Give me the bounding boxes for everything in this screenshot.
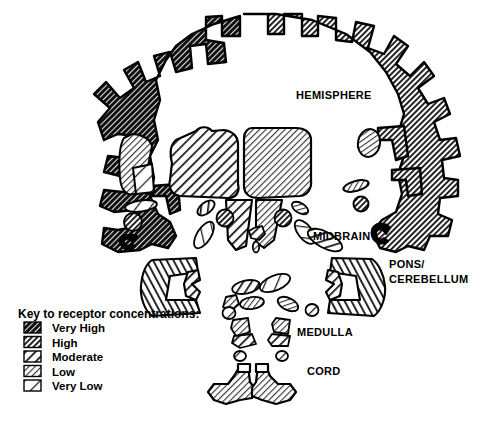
legend-swatch-high	[24, 337, 41, 348]
label-pons: PONS/	[389, 258, 425, 270]
label-cord: CORD	[307, 365, 341, 377]
central-grey-right	[244, 128, 311, 198]
label-medulla: MEDULLA	[297, 326, 353, 338]
legend-row-very-high: Very High	[24, 322, 105, 334]
legend-row-very-low: Very Low	[24, 380, 103, 392]
legend-swatch-very-high	[24, 322, 41, 333]
legend-label-moderate: Moderate	[52, 351, 103, 363]
brain-receptor-diagram: HEMISPHERE MIDBRAIN PONS/ CEREBELLUM MED…	[0, 0, 492, 428]
central-grey-left	[169, 127, 238, 198]
legend-label-low: Low	[52, 366, 75, 378]
label-hemisphere: HEMISPHERE	[296, 89, 372, 101]
legend-swatch-moderate	[24, 351, 41, 362]
legend-swatch-low	[24, 366, 41, 377]
label-midbrain: MIDBRAIN	[313, 230, 370, 242]
label-cerebellum: CEREBELLUM	[389, 273, 468, 285]
legend-label-very-low: Very Low	[52, 380, 103, 392]
legend-title: Key to receptor concentrations:	[18, 307, 199, 321]
legend-swatch-very-low	[24, 380, 41, 391]
legend-label-very-high: Very High	[52, 322, 105, 334]
legend-label-high: High	[52, 337, 78, 349]
legend-row-moderate: Moderate	[24, 351, 103, 363]
